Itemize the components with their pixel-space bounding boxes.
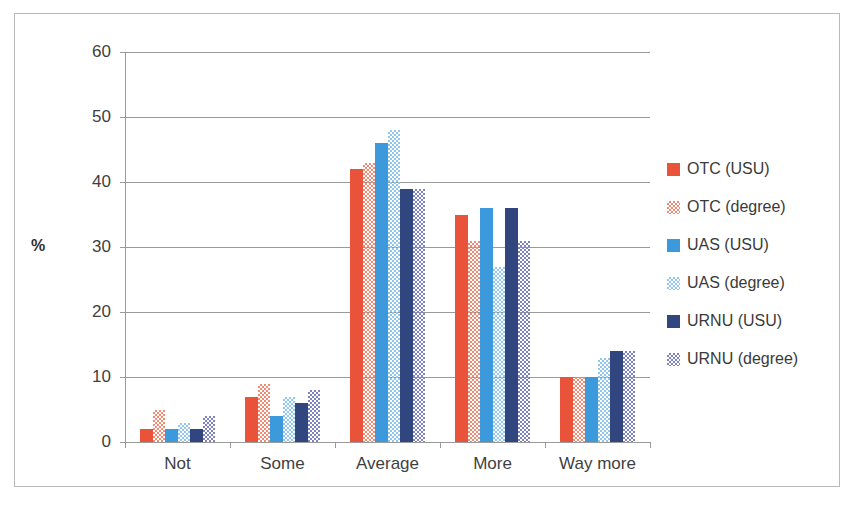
bar	[518, 241, 531, 443]
bar	[245, 397, 258, 443]
bar	[598, 358, 611, 443]
x-tick-label: Some	[230, 454, 335, 474]
bar	[308, 390, 321, 442]
legend-item[interactable]: UAS (degree)	[667, 264, 858, 302]
x-tick-label: Not	[125, 454, 230, 474]
x-tick-mark	[230, 442, 231, 448]
bar	[560, 377, 573, 442]
bar	[363, 163, 376, 443]
y-axis-title: %	[31, 237, 45, 255]
bar-group	[560, 52, 635, 442]
bar	[505, 208, 518, 442]
legend-label: URNU (degree)	[687, 350, 798, 368]
x-tick-mark	[335, 442, 336, 448]
bar	[258, 384, 271, 443]
legend-swatch-icon	[667, 277, 680, 290]
x-tick-label: More	[440, 454, 545, 474]
bar	[178, 423, 191, 443]
bar	[203, 416, 216, 442]
y-tick-label: 50	[65, 108, 111, 125]
legend-swatch-icon	[667, 315, 680, 328]
legend-label: OTC (USU)	[687, 160, 770, 178]
plot-area: NotSomeAverageMoreWay more	[125, 52, 650, 442]
x-tick-mark	[545, 442, 546, 448]
x-tick-mark	[650, 442, 651, 448]
y-axis-line	[125, 52, 126, 442]
chart-legend: OTC (USU)OTC (degree)UAS (USU)UAS (degre…	[667, 150, 858, 378]
legend-swatch-icon	[667, 163, 680, 176]
y-tick-label: 0	[65, 433, 111, 450]
x-tick-label: Average	[335, 454, 440, 474]
y-tick-label: 10	[65, 368, 111, 385]
bar-group	[350, 52, 425, 442]
legend-swatch-icon	[667, 239, 680, 252]
legend-label: UAS (USU)	[687, 236, 769, 254]
bar	[413, 189, 426, 443]
legend-item[interactable]: UAS (USU)	[667, 226, 858, 264]
bar	[140, 429, 153, 442]
bar	[283, 397, 296, 443]
bar	[480, 208, 493, 442]
bar	[165, 429, 178, 442]
legend-item[interactable]: URNU (USU)	[667, 302, 858, 340]
bar	[270, 416, 283, 442]
bar	[610, 351, 623, 442]
bar	[623, 351, 636, 442]
legend-label: UAS (degree)	[687, 274, 785, 292]
legend-swatch-icon	[667, 201, 680, 214]
legend-swatch-icon	[667, 353, 680, 366]
x-axis-line	[125, 442, 650, 443]
y-tick-label: 30	[65, 238, 111, 255]
legend-label: URNU (USU)	[687, 312, 782, 330]
bar	[573, 377, 586, 442]
bar-group	[455, 52, 530, 442]
chart-frame: NotSomeAverageMoreWay more 0102030405060…	[14, 13, 840, 487]
bar	[468, 241, 481, 443]
y-tick-label: 40	[65, 173, 111, 190]
bar	[585, 377, 598, 442]
bar	[153, 410, 166, 443]
bar-group	[245, 52, 320, 442]
bar	[388, 130, 401, 442]
bar	[455, 215, 468, 443]
y-tick-label: 20	[65, 303, 111, 320]
bar	[375, 143, 388, 442]
x-tick-mark	[125, 442, 126, 448]
x-tick-label: Way more	[545, 454, 650, 474]
legend-label: OTC (degree)	[687, 198, 786, 216]
bar	[350, 169, 363, 442]
x-tick-mark	[440, 442, 441, 448]
bar	[295, 403, 308, 442]
legend-item[interactable]: OTC (degree)	[667, 188, 858, 226]
y-tick-label: 60	[65, 43, 111, 60]
bar-group	[140, 52, 215, 442]
legend-item[interactable]: OTC (USU)	[667, 150, 858, 188]
bar	[400, 189, 413, 443]
bar	[190, 429, 203, 442]
legend-item[interactable]: URNU (degree)	[667, 340, 858, 378]
bar	[493, 267, 506, 443]
